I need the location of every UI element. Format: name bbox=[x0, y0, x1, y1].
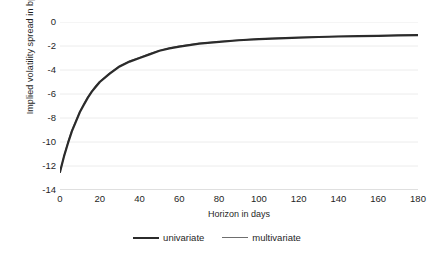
chart-figure: Implied volatility spread in bp 0-2-4-6-… bbox=[0, 0, 434, 262]
legend-item-multivariate[interactable]: multivariate bbox=[222, 232, 301, 243]
y-axis-tick-label: -6 bbox=[30, 89, 56, 99]
series-line-univariate bbox=[60, 35, 418, 172]
x-axis-tick-label: 140 bbox=[323, 193, 353, 204]
legend-label: univariate bbox=[163, 232, 204, 243]
y-axis-tick-label: -4 bbox=[30, 65, 56, 75]
x-axis-tick-label: 160 bbox=[363, 193, 393, 204]
legend-item-univariate[interactable]: univariate bbox=[133, 232, 204, 243]
y-axis-tick-label: 0 bbox=[30, 17, 56, 27]
legend-line-swatch bbox=[133, 237, 159, 239]
y-axis-tick-label: -10 bbox=[30, 137, 56, 147]
y-axis-tick-label: -12 bbox=[30, 161, 56, 171]
y-axis-tick-label: -2 bbox=[30, 41, 56, 51]
y-axis-tick-labels: 0-2-4-6-8-10-12-14 bbox=[28, 0, 56, 262]
x-axis-tick-label: 180 bbox=[403, 193, 433, 204]
x-axis-tick-label: 60 bbox=[164, 193, 194, 204]
x-axis-tick-label: 80 bbox=[204, 193, 234, 204]
x-axis-title: Horizon in days bbox=[60, 209, 418, 219]
x-axis-tick-label: 0 bbox=[45, 193, 75, 204]
plot-area bbox=[60, 22, 418, 190]
legend-label: multivariate bbox=[252, 232, 301, 243]
chart-legend: univariatemultivariate bbox=[0, 232, 434, 243]
x-axis-tick-label: 120 bbox=[284, 193, 314, 204]
y-axis-tick-label: -8 bbox=[30, 113, 56, 123]
legend-line-swatch bbox=[222, 237, 248, 238]
x-axis-tick-label: 40 bbox=[125, 193, 155, 204]
series-line-multivariate bbox=[60, 35, 418, 172]
series-canvas bbox=[60, 22, 418, 190]
x-axis-tick-label: 100 bbox=[244, 193, 274, 204]
x-axis-tick-label: 20 bbox=[85, 193, 115, 204]
